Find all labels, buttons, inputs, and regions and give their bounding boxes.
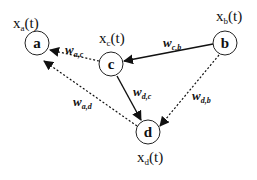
diagram-svg: a b c d xa(t) xb(t) xc(t) xd(t) wc,b wa,… — [0, 0, 257, 180]
weight-label-cb: wc,b — [163, 35, 181, 52]
node-d: d — [136, 120, 160, 144]
edge-b-d — [160, 55, 219, 126]
state-label-b: xb(t) — [216, 8, 242, 26]
node-a: a — [25, 31, 49, 55]
weight-label-db: wd,b — [192, 88, 211, 105]
edge-d-a — [44, 61, 137, 126]
state-label-d: xd(t) — [137, 149, 163, 167]
node-b: b — [213, 31, 237, 55]
state-label-a: xa(t) — [13, 15, 39, 33]
node-c: c — [99, 52, 123, 76]
node-a-label: a — [33, 35, 41, 51]
node-d-label: d — [144, 124, 153, 140]
weight-label-ad: wa,d — [73, 94, 93, 111]
weight-label-dc: wd,c — [133, 84, 152, 101]
state-label-c: xc(t) — [99, 30, 125, 48]
node-b-label: b — [221, 35, 229, 51]
node-c-label: c — [108, 56, 115, 72]
graph-diagram: a b c d xa(t) xb(t) xc(t) xd(t) wc,b wa,… — [0, 0, 257, 180]
weight-label-ac: wa,c — [65, 42, 84, 59]
